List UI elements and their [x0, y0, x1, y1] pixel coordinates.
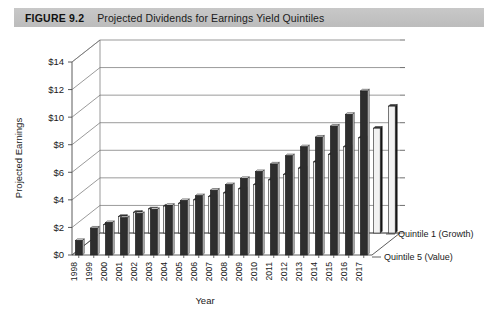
chart-3d-bar: $0$2$4$6$8$10$12$14Projected Earnings199… [0, 28, 499, 309]
series-label: Quintile 1 (Growth) [398, 229, 474, 239]
bar-side [352, 113, 354, 255]
bar-front [165, 205, 172, 255]
bar [210, 189, 219, 255]
x-axis-title: Year [195, 295, 214, 306]
x-axis-tick-label: 2008 [219, 262, 229, 281]
x-axis-tick-label: 2013 [294, 262, 304, 281]
x-axis-tick-label: 2003 [144, 262, 154, 281]
x-axis-tick-label: 2011 [264, 262, 274, 281]
bar-front [225, 185, 232, 255]
bar-front [240, 178, 247, 255]
y-tick-connector [72, 178, 100, 200]
chart-svg: $0$2$4$6$8$10$12$14Projected Earnings199… [0, 28, 499, 309]
bar [165, 204, 174, 255]
bar [195, 194, 204, 255]
bar-side [127, 216, 129, 255]
y-tick-connector [72, 150, 100, 172]
bar-side [82, 239, 84, 255]
bar [240, 177, 249, 255]
figure-caption: Projected Dividends for Earnings Yield Q… [97, 12, 324, 24]
y-axis-tick-label: $0 [53, 249, 64, 260]
bar [120, 216, 129, 255]
bar-side [307, 145, 309, 255]
bar [270, 162, 279, 255]
bar-side [217, 189, 219, 255]
bar [135, 212, 144, 255]
bar-side [367, 89, 369, 255]
bar [255, 170, 264, 255]
x-axis-tick-label: 2007 [204, 262, 214, 281]
x-axis-tick-label: 2001 [114, 262, 124, 281]
x-axis-tick-label: 2017 [354, 262, 364, 281]
bar-side [202, 194, 204, 255]
bar-side [112, 221, 114, 255]
bar-front [300, 147, 307, 255]
figure-number: FIGURE 9.2 [25, 12, 84, 24]
y-axis-tick-label: $12 [48, 84, 64, 95]
y-axis-title: Projected Earnings [13, 118, 24, 199]
bar-side [262, 170, 264, 255]
y-axis-tick-label: $8 [53, 139, 64, 150]
bar-front [373, 128, 380, 233]
bar-front [255, 172, 262, 255]
x-axis-tick-label: 2010 [249, 262, 259, 281]
bar-front [90, 228, 97, 255]
bar-side [97, 226, 99, 255]
y-tick-connector [72, 123, 100, 145]
bar-side [232, 183, 234, 255]
bar-side [292, 154, 294, 255]
x-axis-tick-label: 2012 [279, 262, 289, 281]
bar-front [210, 190, 217, 255]
y-axis-tick-label: $6 [53, 167, 64, 178]
bar [345, 113, 354, 255]
bar-front [135, 214, 142, 255]
bar [225, 183, 234, 255]
bar-front [75, 241, 82, 255]
bar [360, 89, 369, 255]
figure-title-bar: FIGURE 9.2 Projected Dividends for Earni… [14, 8, 484, 27]
bar [150, 208, 159, 255]
bar-side [247, 177, 249, 255]
figure-container: FIGURE 9.2 Projected Dividends for Earni… [0, 0, 499, 309]
x-axis-tick-label: 2016 [339, 262, 349, 281]
bar [90, 226, 99, 255]
bar-front [388, 106, 395, 233]
bar-front [285, 156, 292, 255]
x-axis-tick-label: 2006 [189, 262, 199, 281]
bar [75, 239, 84, 255]
bar [330, 124, 339, 255]
bar-side [380, 127, 382, 233]
bar-front [330, 126, 337, 255]
bar [373, 127, 382, 233]
x-axis-tick-label: 1998 [69, 262, 79, 281]
bar-side [322, 135, 324, 255]
y-tick-connector [72, 205, 100, 227]
bar-front [345, 114, 352, 255]
y-tick-connector [72, 40, 100, 62]
bar-front [360, 91, 367, 255]
y-axis-tick-label: $14 [48, 56, 64, 67]
bar-side [172, 204, 174, 255]
bar-front [315, 137, 322, 255]
bar [300, 145, 309, 255]
bar [388, 105, 397, 233]
bar-front [195, 196, 202, 255]
x-axis-tick-label: 2004 [159, 262, 169, 281]
y-tick-connector [72, 68, 100, 90]
x-axis-tick-label: 2014 [309, 262, 319, 281]
bars-group [75, 89, 397, 255]
x-axis-tick-label: 2015 [324, 262, 334, 281]
bar-side [187, 199, 189, 255]
x-axis-tick-label: 1999 [84, 262, 94, 281]
y-axis-tick-label: $2 [53, 222, 64, 233]
bar-front [150, 210, 157, 255]
x-axis-tick-label: 2000 [99, 262, 109, 281]
y-tick-connector [72, 95, 100, 117]
bar-front [180, 201, 187, 255]
bar-front [105, 223, 112, 255]
bar [315, 135, 324, 255]
x-axis-tick-label: 2002 [129, 262, 139, 281]
bar-side [142, 212, 144, 255]
x-axis-tick-label: 2005 [174, 262, 184, 281]
bar [180, 199, 189, 255]
